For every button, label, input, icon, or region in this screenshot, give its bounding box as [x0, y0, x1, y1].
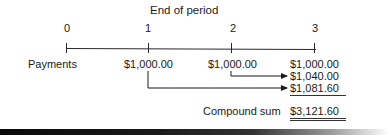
arrow-period-1-to-3 [148, 71, 287, 88]
compound-sum-value: $3,121.60 [290, 105, 339, 117]
arrow-period-2-to-3 [231, 71, 287, 76]
total-double-underline-2 [290, 120, 346, 121]
compound-sum-label: Compound sum [203, 105, 281, 117]
total-double-underline-1 [290, 118, 346, 119]
bottom-rule [0, 129, 389, 135]
